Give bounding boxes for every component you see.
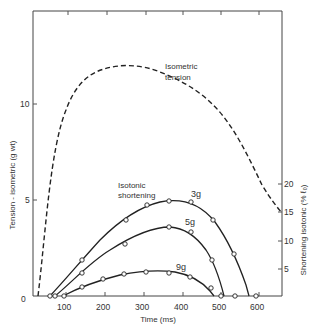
x-tick-300: 300: [135, 302, 149, 312]
series-3g-markers: [48, 199, 258, 298]
series-3g-curve: [50, 201, 249, 296]
x-tick-400: 400: [174, 302, 188, 312]
y-left-tick-10: 10: [20, 99, 30, 109]
annotation-isometric-1: Isometric: [165, 62, 197, 71]
x-tick-100: 100: [57, 302, 71, 312]
y-right-tick-10: 10: [284, 236, 294, 246]
series-9g-markers: [62, 270, 223, 298]
annotation-isotonic-2: shortening: [118, 191, 155, 200]
x-tick-500: 500: [212, 302, 226, 312]
y-right-tick-15: 15: [284, 207, 294, 217]
annotation-isometric-2: tension: [165, 73, 191, 82]
top-ticks: [68, 11, 259, 15]
label-3g: 3g: [191, 189, 201, 199]
x-axis-label: Time (ms): [140, 315, 176, 324]
annotations: Isometric tension Isotonic shortening 3g…: [118, 62, 201, 272]
chart-figure: 0 100 200 300 400 500 600 5 10 5 10 15 2…: [0, 0, 313, 330]
label-9g: 9g: [176, 262, 186, 272]
chart-svg: 0 100 200 300 400 500 600 5 10 5 10 15 2…: [0, 0, 313, 330]
plot-frame: [33, 11, 282, 296]
y-right-tick-20: 20: [284, 179, 294, 189]
isometric-tension-curve: [38, 66, 282, 296]
y-right-tick-labels: 5 10 15 20: [284, 179, 294, 274]
y-right-tick-5: 5: [284, 264, 289, 274]
x-tick-200: 200: [96, 302, 110, 312]
label-5g: 5g: [185, 217, 195, 227]
annotation-isotonic-1: Isotonic: [118, 181, 146, 190]
y-left-ticks: [33, 104, 37, 200]
y-right-ticks: [278, 184, 282, 269]
y-left-tick-5: 5: [25, 195, 30, 205]
y-right-axis-label: Shortening isotonic (% ℓ₀): [299, 184, 308, 275]
x-tick-600: 600: [250, 302, 264, 312]
y-left-axis-label: Tension - isometric (g wt): [8, 140, 17, 229]
x-tick-0: 0: [21, 294, 26, 304]
y-left-tick-labels: 5 10: [20, 99, 30, 205]
x-ticks: [66, 292, 259, 296]
